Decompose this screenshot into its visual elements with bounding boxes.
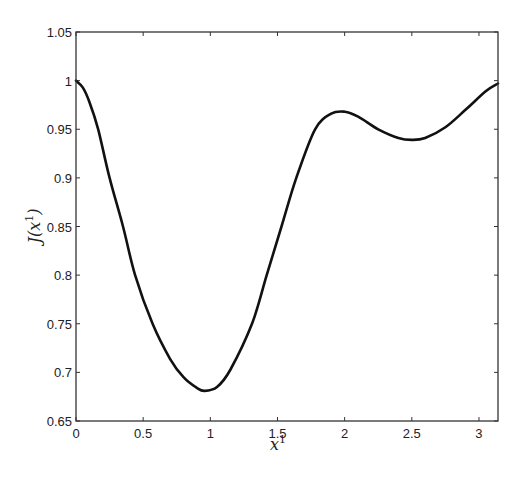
y-tick-label: 0.75 bbox=[47, 317, 72, 332]
data-line bbox=[76, 81, 498, 391]
y-tick-label: 0.9 bbox=[54, 171, 72, 186]
y-tick-label: 0.95 bbox=[47, 122, 72, 137]
x-axis-label: x1 bbox=[270, 433, 286, 454]
y-tick-label: 0.85 bbox=[47, 220, 72, 235]
x-tick-label: 0 bbox=[72, 426, 79, 441]
x-tick-label: 2.5 bbox=[403, 426, 421, 441]
x-tick-label: 2 bbox=[341, 426, 348, 441]
y-tick-label: 0.7 bbox=[54, 365, 72, 380]
line-chart: 00.511.522.53 0.650.70.750.80.850.90.951… bbox=[0, 0, 523, 477]
y-axis-label: J(x1) bbox=[23, 209, 44, 247]
plot-frame bbox=[76, 32, 498, 421]
x-tick-label: 0.5 bbox=[134, 426, 152, 441]
y-axis-ticks: 0.650.70.750.80.850.90.9511.05 bbox=[47, 25, 498, 429]
y-tick-label: 0.65 bbox=[47, 414, 72, 429]
x-tick-label: 3 bbox=[475, 426, 482, 441]
x-tick-label: 1 bbox=[207, 426, 214, 441]
y-tick-label: 1.05 bbox=[47, 25, 72, 40]
y-tick-label: 1 bbox=[65, 74, 72, 89]
y-tick-label: 0.8 bbox=[54, 268, 72, 283]
